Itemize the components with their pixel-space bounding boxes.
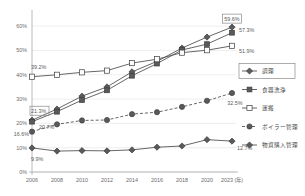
data-point-marker [129, 61, 134, 66]
x-tick-label: 2012 [101, 177, 113, 183]
data-point-marker [204, 98, 209, 103]
data-point-marker [154, 110, 159, 115]
data-point-marker [104, 148, 110, 154]
legend-label-調理: 調理 [262, 67, 274, 75]
data-label: 16.6% [14, 131, 29, 137]
data-label: 59.6% [224, 16, 239, 22]
data-point-marker [29, 129, 34, 134]
data-label: 9.9% [31, 156, 43, 162]
data-label: 32.5% [227, 100, 242, 106]
data-point-marker [205, 42, 210, 47]
x-tick-label: 2018 [176, 177, 188, 183]
data-point-marker [79, 118, 84, 123]
data-label: 39.2% [31, 64, 46, 70]
data-point-marker [54, 148, 60, 154]
data-point-marker [204, 48, 209, 53]
x-tick-label: 2023 (年) [221, 176, 243, 184]
y-tick-label: 40% [16, 72, 27, 78]
legend-label-食器洗浄: 食器洗浄 [262, 86, 286, 94]
x-axis-tick-labels: 200620082010201220142016201820202023 (年) [26, 176, 243, 184]
data-point-marker [55, 109, 60, 114]
data-point-marker [54, 72, 59, 77]
data-label: 57.3% [239, 27, 254, 33]
data-point-marker [179, 143, 185, 149]
y-axis-tick-labels: 0%10%20%30%40%50%60% [16, 23, 27, 175]
data-label: 21.3% [31, 108, 46, 114]
y-tick-label: 0% [19, 169, 27, 175]
data-point-marker [179, 50, 184, 55]
x-tick-label: 2008 [51, 177, 63, 183]
data-point-marker [230, 30, 235, 35]
data-point-marker [130, 73, 135, 78]
data-point-marker [104, 68, 109, 73]
chart-legend: 調理食器洗浄運搬ボイラー管理物資購入管理 [239, 64, 298, 150]
x-tick-label: 2020 [201, 177, 213, 183]
data-point-marker [29, 145, 35, 151]
data-point-marker [54, 122, 59, 127]
data-point-marker [30, 119, 35, 124]
legend-label-ボイラー管理: ボイラー管理 [262, 123, 298, 131]
data-point-marker [105, 88, 110, 93]
legend-label-運搬: 運搬 [262, 104, 274, 112]
data-point-marker [229, 90, 234, 95]
data-point-marker [204, 137, 210, 143]
data-point-marker [129, 112, 134, 117]
x-tick-label: 2006 [26, 177, 38, 183]
data-point-marker [229, 43, 234, 48]
y-tick-label: 30% [16, 96, 27, 102]
data-point-marker [229, 138, 235, 144]
data-point-marker [79, 70, 84, 75]
data-point-marker [246, 68, 252, 74]
data-point-marker [104, 117, 109, 122]
y-tick-label: 10% [16, 145, 27, 151]
y-tick-label: 20% [16, 120, 27, 126]
data-point-marker [229, 24, 235, 30]
data-series-layer [32, 27, 232, 151]
x-tick-label: 2014 [126, 177, 138, 183]
data-label: 51.9% [239, 48, 254, 54]
data-point-marker [29, 74, 34, 79]
y-tick-label: 50% [16, 47, 27, 53]
data-point-marker [154, 144, 160, 150]
data-point-marker [80, 98, 85, 103]
data-point-marker [79, 148, 85, 154]
y-tick-label: 60% [16, 23, 27, 29]
chart-container: 0%10%20%30%40%50%60% 2006200820102012201… [0, 0, 305, 196]
legend-label-物資購入管理: 物資購入管理 [262, 141, 298, 149]
data-point-marker [247, 124, 252, 129]
x-tick-label: 2010 [76, 177, 88, 183]
data-labels-layer: 39.2%21.3%20.7%16.6%9.9%59.6%57.3%51.9%3… [14, 14, 255, 162]
data-point-marker [247, 105, 252, 110]
data-label: 20.7% [39, 124, 54, 130]
line-chart: 0%10%20%30%40%50%60% 2006200820102012201… [0, 0, 305, 196]
data-point-marker [247, 87, 252, 92]
x-tick-label: 2016 [151, 177, 163, 183]
data-point-marker [179, 104, 184, 109]
data-point-marker [204, 34, 210, 40]
data-point-marker [154, 57, 159, 62]
data-markers-layer [29, 24, 235, 154]
